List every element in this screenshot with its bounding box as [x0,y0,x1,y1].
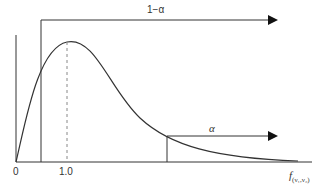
upper-arrow-head-icon [268,15,278,25]
upper-region-text: 1−α [147,4,164,15]
mode-tick-label: 1.0 [59,166,73,177]
tail-arrow-head-icon [268,131,278,141]
upper-region-label: 1−α [147,4,164,15]
x-axis-subscript: (ν₁,ν₂) [292,176,310,184]
x-axis-label: f(ν₁,ν₂) [289,169,310,184]
tail-region-label: α [209,122,215,134]
density-curve [16,42,298,162]
f-distribution-diagram [0,0,326,190]
origin-label: 0 [13,166,19,177]
